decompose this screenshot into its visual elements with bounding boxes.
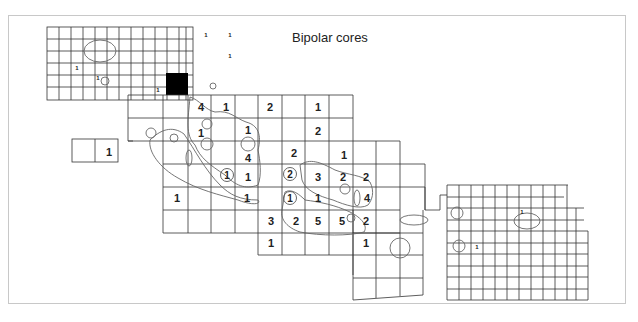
- count-label: 1: [174, 192, 180, 204]
- count-label: 1: [245, 171, 251, 183]
- count-label: 2: [315, 125, 321, 137]
- small-count-label: 1: [156, 87, 160, 93]
- count-label: 2: [291, 147, 297, 159]
- small-count-label: 1: [96, 75, 100, 81]
- count-label: 1: [244, 192, 250, 204]
- feature-circle: [210, 83, 216, 89]
- small-count-label: 1: [204, 32, 208, 38]
- count-label: 2: [363, 171, 369, 183]
- count-label: 1: [341, 149, 347, 161]
- contour-outline: [400, 215, 428, 225]
- count-label: 1: [106, 146, 112, 158]
- circled-count-label: 1: [287, 193, 293, 204]
- contour-outline: [514, 213, 540, 229]
- feature-circle: [347, 214, 355, 222]
- count-label: 4: [198, 101, 205, 113]
- feature-circle: [241, 137, 255, 151]
- small-count-label: 1: [228, 53, 232, 59]
- feature-circle: [101, 77, 109, 85]
- right-small-grid: [447, 185, 588, 300]
- circled-count-label: 1: [224, 170, 230, 181]
- count-label: 2: [340, 171, 346, 183]
- count-label: 2: [363, 215, 369, 227]
- feature-circle: [146, 128, 156, 138]
- count-label: 1: [315, 101, 321, 113]
- small-count-label: 1: [475, 244, 479, 250]
- count-label: 4: [245, 152, 252, 164]
- count-label: 1: [198, 127, 204, 139]
- density-contour: [300, 161, 373, 207]
- count-label: 1: [268, 237, 274, 249]
- excavation-grid-map: 4121112214132211143255211112111111111: [0, 0, 638, 322]
- small-count-label: 1: [75, 65, 79, 71]
- count-label: 1: [363, 237, 369, 249]
- feature-ellipse: [354, 190, 360, 206]
- count-label: 5: [339, 215, 345, 227]
- filled-black-cell: [166, 73, 188, 95]
- count-label: 3: [268, 215, 274, 227]
- count-label: 1: [245, 124, 251, 136]
- circled-count-label: 2: [287, 169, 293, 180]
- count-label: 4: [364, 192, 371, 204]
- small-count-label: 1: [228, 32, 232, 38]
- feature-circle: [340, 184, 350, 194]
- count-label: 2: [267, 101, 273, 113]
- count-label: 5: [315, 215, 321, 227]
- count-label: 2: [293, 215, 299, 227]
- small-count-label: 1: [520, 209, 524, 215]
- count-label: 3: [315, 171, 321, 183]
- count-label: 1: [315, 192, 321, 204]
- feature-circle: [451, 207, 463, 219]
- count-label: 1: [223, 101, 229, 113]
